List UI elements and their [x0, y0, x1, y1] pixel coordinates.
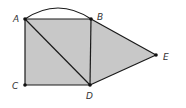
point-e	[154, 53, 158, 57]
label-b: B	[97, 12, 103, 22]
point-a	[23, 17, 27, 21]
point-b	[89, 17, 93, 21]
arc-ab	[25, 8, 91, 19]
label-e: E	[163, 52, 169, 62]
label-d: D	[86, 91, 93, 101]
point-c	[23, 83, 27, 87]
point-d	[88, 83, 92, 87]
shaded-triangle-bde	[90, 19, 156, 85]
label-c: C	[12, 81, 19, 91]
geometry-diagram: A B C D E	[0, 0, 186, 108]
label-a: A	[12, 14, 19, 24]
